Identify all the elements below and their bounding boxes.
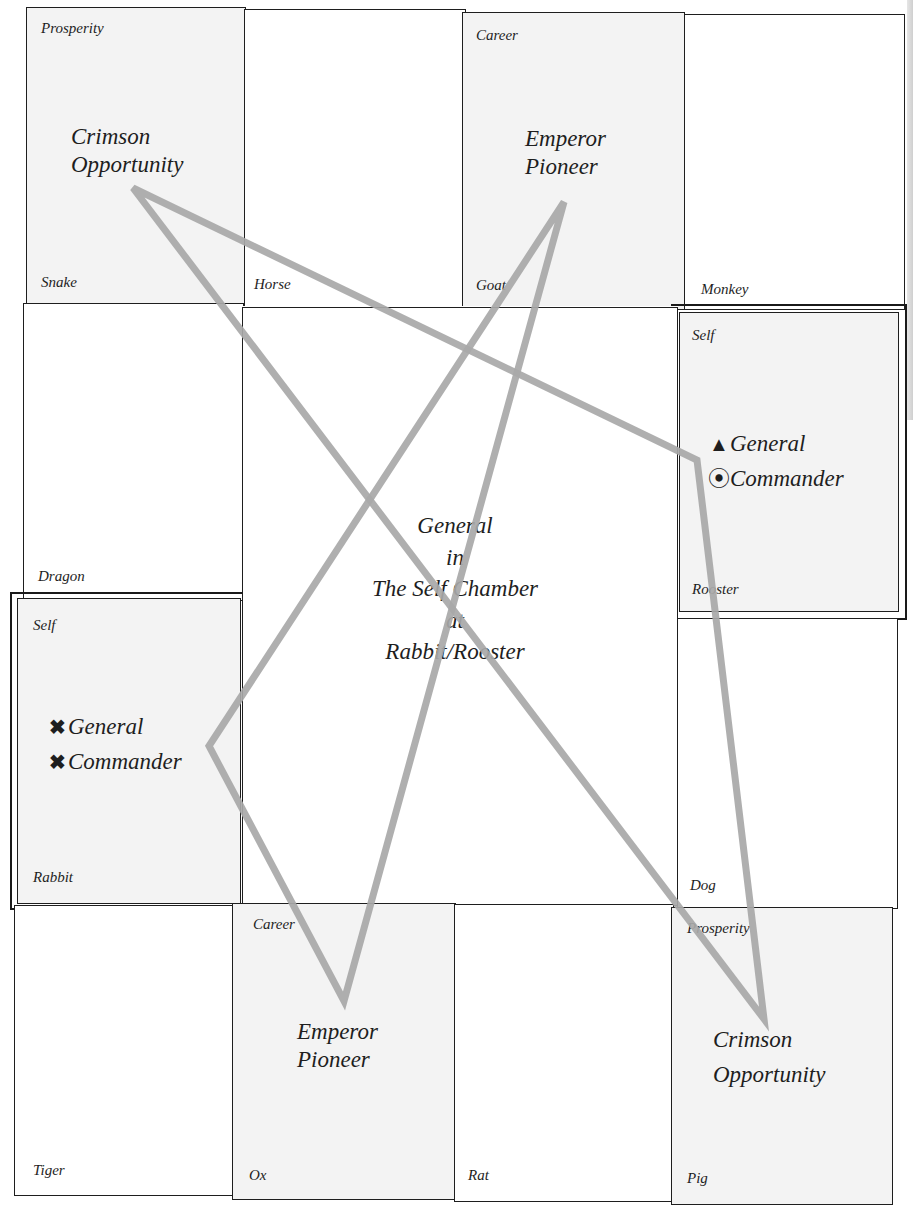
triangle-overlay: [0, 0, 913, 1219]
triangle-crimson-opportunity: [133, 188, 764, 1019]
palace-chart: Prosperity Crimson Opportunity Snake Hor…: [0, 0, 913, 1219]
triangle-emperor-pioneer: [209, 202, 564, 1001]
